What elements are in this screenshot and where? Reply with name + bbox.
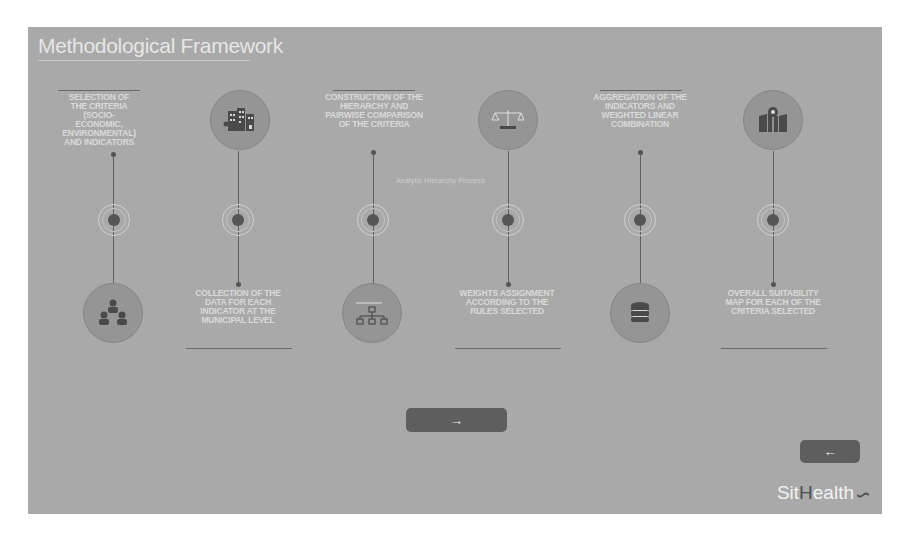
- database-icon: [610, 283, 670, 343]
- map-pin-icon: [743, 90, 803, 150]
- timeline-node[interactable]: [757, 204, 789, 236]
- title-underline: [38, 60, 250, 61]
- arrow-left-icon: ←: [824, 444, 837, 459]
- city-buildings-icon: [210, 90, 270, 150]
- step-5-text: Aggregation of the indicators and weight…: [590, 93, 690, 129]
- next-button[interactable]: →: [406, 408, 507, 432]
- divider: [186, 348, 292, 349]
- ahp-caption: Analytic Hierarchy Process: [396, 177, 485, 184]
- back-button[interactable]: ←: [800, 440, 860, 463]
- divider: [58, 90, 140, 91]
- connector-end: [371, 150, 376, 155]
- connector-end: [236, 282, 241, 287]
- brand-text-h: H: [799, 482, 813, 504]
- step-1-text: Selection of the criteria (socio-economi…: [61, 93, 137, 147]
- divider: [721, 348, 827, 349]
- page-title: Methodological Framework: [38, 34, 283, 58]
- connector-end: [771, 282, 776, 287]
- timeline-node[interactable]: [98, 204, 130, 236]
- org-chart-icon: [342, 283, 402, 343]
- people-hierarchy-icon: [83, 283, 143, 343]
- book-logo-icon: [856, 490, 870, 499]
- connector-end: [111, 152, 116, 157]
- balance-scale-icon: [478, 90, 538, 150]
- step-4-text: Weights assignment according to the rule…: [455, 289, 559, 316]
- arrow-right-icon: →: [450, 413, 463, 428]
- connector-end: [506, 282, 511, 287]
- step-2-text: Collection of the data for each indicato…: [186, 289, 290, 325]
- brand-text-sit: Sit: [777, 482, 799, 504]
- timeline-node[interactable]: [357, 204, 389, 236]
- divider: [600, 90, 682, 91]
- timeline-node[interactable]: [492, 204, 524, 236]
- step-6-text: Overall suitability map for each of the …: [721, 289, 825, 316]
- brand-logo: SitHealth: [777, 482, 870, 504]
- divider: [333, 90, 415, 91]
- timeline-node[interactable]: [222, 204, 254, 236]
- slide: Methodological Framework Analytic Hierar…: [28, 27, 882, 514]
- connector-end: [638, 150, 643, 155]
- divider: [455, 348, 561, 349]
- timeline-node[interactable]: [624, 204, 656, 236]
- step-3-text: Construction of the hierarchy and pairwi…: [324, 93, 424, 129]
- brand-text-ealth: ealth: [813, 482, 854, 504]
